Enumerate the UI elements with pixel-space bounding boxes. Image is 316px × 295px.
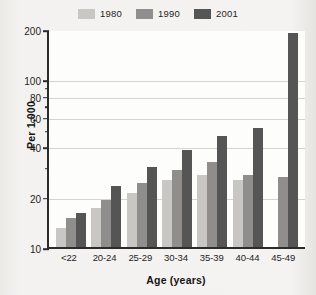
bar-group-2529 — [124, 31, 159, 247]
bar-1980-2529[interactable] — [127, 193, 137, 247]
plot-area: 1020406080100200 — [47, 31, 305, 249]
y-tick-label-80: 80 — [30, 92, 41, 103]
bar-group-3539 — [195, 31, 230, 247]
y-tick-minor-30 — [45, 168, 49, 169]
legend-item-1980[interactable]: 1980 — [78, 9, 122, 19]
y-tick-20 — [43, 198, 49, 200]
bar-2001-4044[interactable] — [253, 128, 263, 247]
bar-group-4549 — [266, 31, 301, 247]
bar-2001-4549[interactable] — [288, 33, 298, 247]
bar-1990-4044[interactable] — [243, 175, 253, 247]
y-tick-10 — [43, 248, 49, 250]
y-tick-label-10: 10 — [30, 244, 41, 255]
legend-swatch-1980 — [78, 9, 95, 19]
bar-1990-3539[interactable] — [207, 162, 217, 247]
bar-group-3034 — [159, 31, 194, 247]
bar-1980-3539[interactable] — [197, 175, 207, 247]
y-tick-80 — [43, 97, 49, 99]
bar-1980-22[interactable] — [56, 228, 66, 247]
legend-item-2001[interactable]: 2001 — [194, 9, 238, 19]
bar-1990-3034[interactable] — [172, 170, 182, 247]
plot-inner — [49, 31, 305, 247]
bar-group-22 — [53, 31, 88, 247]
y-tick-200 — [43, 30, 49, 32]
y-tick-minor-90 — [45, 88, 49, 89]
y-tick-60 — [43, 118, 49, 120]
bar-1990-22[interactable] — [66, 218, 76, 248]
legend-swatch-2001 — [194, 9, 211, 19]
x-axis-title: Age (years) — [47, 274, 305, 286]
bar-1990-2024[interactable] — [101, 200, 111, 247]
legend-label-1990: 1990 — [158, 9, 180, 19]
legend-swatch-1990 — [136, 9, 153, 19]
y-tick-100 — [43, 81, 49, 83]
x-axis-tick-labels: <2220-2425-2930-3435-3940-4445-49 — [47, 252, 305, 263]
y-tick-label-60: 60 — [30, 113, 41, 124]
y-tick-40 — [43, 147, 49, 149]
bar-2001-22[interactable] — [76, 213, 86, 247]
legend-label-2001: 2001 — [216, 9, 238, 19]
y-tick-minor-50 — [45, 131, 49, 132]
bar-2001-2024[interactable] — [111, 186, 121, 247]
chart-legend: 1980 1990 2001 — [0, 4, 316, 24]
x-tick-label-4549: 45-49 — [265, 252, 301, 263]
bar-1990-4549[interactable] — [278, 177, 288, 247]
y-tick-minor-70 — [45, 107, 49, 108]
y-tick-label-100: 100 — [24, 76, 41, 87]
x-tick-label-2529: 25-29 — [122, 252, 158, 263]
bar-2001-3034[interactable] — [182, 150, 192, 247]
x-tick-label-22: <22 — [51, 252, 87, 263]
x-tick-label-2024: 20-24 — [87, 252, 123, 263]
bar-2001-3539[interactable] — [217, 136, 227, 247]
bar-1980-2024[interactable] — [91, 208, 101, 247]
y-tick-label-200: 200 — [24, 26, 41, 37]
chart-figure: 1980 1990 2001 Per 1,000 102040608010020… — [0, 0, 316, 295]
legend-item-1990[interactable]: 1990 — [136, 9, 180, 19]
bar-layer — [49, 31, 305, 247]
y-tick-label-40: 40 — [30, 143, 41, 154]
x-tick-label-4044: 40-44 — [230, 252, 266, 263]
legend-label-1980: 1980 — [100, 9, 122, 19]
x-tick-label-3034: 30-34 — [158, 252, 194, 263]
bar-1990-2529[interactable] — [137, 183, 147, 247]
y-tick-label-20: 20 — [30, 193, 41, 204]
bar-group-4044 — [230, 31, 265, 247]
bar-2001-2529[interactable] — [147, 167, 157, 247]
bar-1980-4044[interactable] — [233, 180, 243, 247]
x-tick-label-3539: 35-39 — [194, 252, 230, 263]
bar-1980-3034[interactable] — [162, 180, 172, 247]
bar-group-2024 — [88, 31, 123, 247]
